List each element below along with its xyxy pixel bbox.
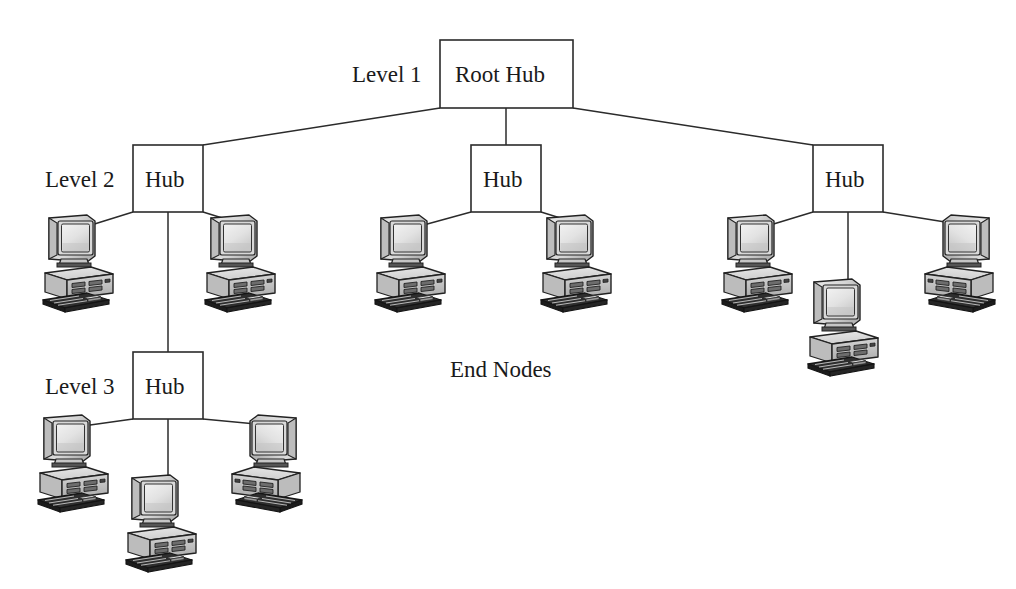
pc-icon-l2-right-b[interactable] bbox=[925, 215, 995, 312]
pc-icon-l2-left-b[interactable] bbox=[205, 215, 275, 312]
level-1-label: Level 1 bbox=[352, 63, 422, 86]
hub-tree-diagram bbox=[0, 0, 1016, 589]
pc-icon-l3-right[interactable] bbox=[232, 415, 302, 512]
hub-label-left: Hub bbox=[145, 168, 185, 191]
pc-icon-l2-left-a[interactable] bbox=[43, 215, 113, 312]
pc-icon-l2-center-b[interactable] bbox=[541, 215, 611, 312]
level-3-label: Level 3 bbox=[45, 375, 115, 398]
pc-icon-l3-center[interactable] bbox=[126, 475, 196, 572]
pc-icon-l2-center-a[interactable] bbox=[375, 215, 445, 312]
root-hub-label: Root Hub bbox=[455, 63, 545, 86]
pc-icon-l2-right-c[interactable] bbox=[808, 279, 878, 376]
hub-label-center: Hub bbox=[483, 168, 523, 191]
pc-icon-l2-right-a[interactable] bbox=[722, 215, 792, 312]
level-2-label: Level 2 bbox=[45, 168, 115, 191]
end-nodes-label: End Nodes bbox=[450, 358, 552, 381]
edge-root-to-hub-left bbox=[203, 108, 440, 145]
edge-root-to-hub-right bbox=[573, 108, 813, 145]
hub-label-level3: Hub bbox=[145, 375, 185, 398]
pc-icon-l3-left[interactable] bbox=[38, 415, 108, 512]
hub-label-right: Hub bbox=[825, 168, 865, 191]
